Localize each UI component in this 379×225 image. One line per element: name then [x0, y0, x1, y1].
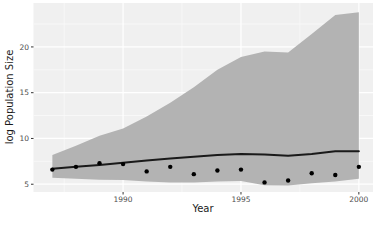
chart-figure: 1990199520005101520 log Population Size … [0, 0, 379, 225]
y-tick-label: 10 [19, 134, 29, 143]
data-point [168, 165, 172, 169]
data-point [262, 180, 266, 184]
data-point [310, 171, 314, 175]
data-point [50, 167, 54, 171]
x-tick-label: 1990 [114, 195, 133, 204]
y-tick-label: 15 [19, 88, 29, 97]
x-tick-label: 2000 [349, 195, 368, 204]
data-point [357, 165, 361, 169]
data-point [215, 168, 219, 172]
chart-canvas: 1990199520005101520 [0, 0, 379, 225]
data-point [333, 173, 337, 177]
x-axis-title: Year [192, 203, 213, 214]
data-point [286, 178, 290, 182]
y-tick-label: 20 [19, 43, 29, 52]
data-point [192, 172, 196, 176]
data-point [121, 162, 125, 166]
data-point [144, 169, 148, 173]
y-tick-label: 5 [24, 180, 29, 189]
x-tick-label: 1995 [231, 195, 250, 204]
data-point [239, 167, 243, 171]
data-point [97, 161, 101, 165]
y-axis-title: log Population Size [4, 50, 15, 145]
data-point [74, 165, 78, 169]
